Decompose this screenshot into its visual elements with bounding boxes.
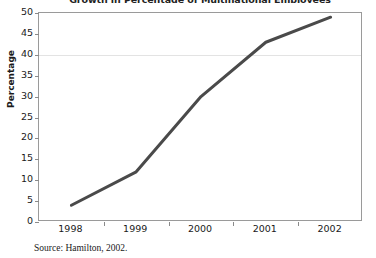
x-tick-label: 1998	[40, 224, 100, 234]
x-tick-label: 1999	[105, 224, 165, 234]
source-note: Source: Hamilton, 2002.	[34, 243, 127, 253]
x-tick-mark	[233, 222, 234, 226]
y-tick-label: 40	[7, 49, 33, 59]
x-tick-mark	[169, 222, 170, 226]
y-tick-label: 30	[7, 91, 33, 101]
chart-figure: Growth in Percentage of Multinational Em…	[0, 0, 376, 258]
data-line	[39, 13, 363, 222]
series-polyline	[71, 17, 330, 205]
y-tick-label: 15	[7, 153, 33, 163]
y-tick-mark	[35, 222, 39, 223]
y-tick-label: 25	[7, 112, 33, 122]
y-tick-label: 10	[7, 174, 33, 184]
y-tick-label: 0	[7, 216, 33, 226]
y-tick-label: 5	[7, 195, 33, 205]
x-tick-mark	[298, 222, 299, 226]
y-tick-label: 20	[7, 132, 33, 142]
plot-area	[38, 12, 362, 221]
y-tick-label: 45	[7, 28, 33, 38]
x-tick-label: 2001	[235, 224, 295, 234]
y-tick-label: 35	[7, 70, 33, 80]
x-tick-label: 2002	[300, 224, 360, 234]
x-tick-label: 2000	[170, 224, 230, 234]
x-tick-mark	[104, 222, 105, 226]
y-tick-label: 50	[7, 7, 33, 17]
chart-title: Growth in Percentage of Multinational Em…	[38, 0, 362, 3]
